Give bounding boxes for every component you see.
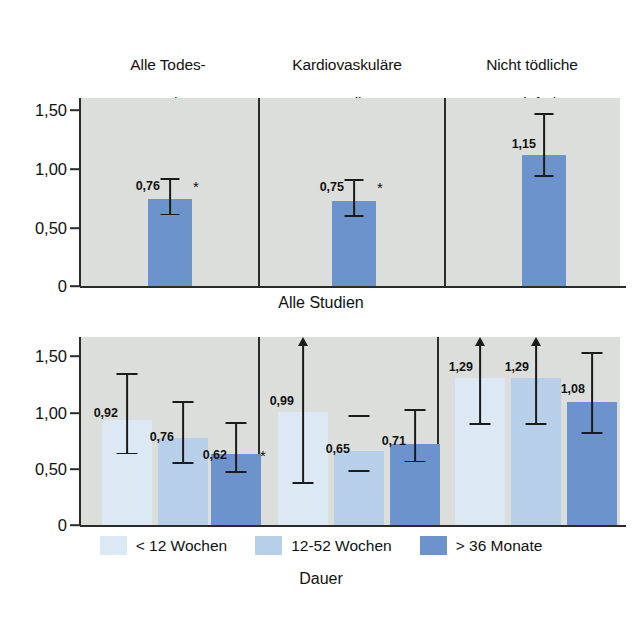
top-ytick-150: 1,50 [12,101,67,120]
bottom-errorbar-cap-bottom-p3-lt12w [470,423,491,425]
top-y-axis [79,98,81,286]
bottom-value-label-p2-gt36m: 0,71 [382,434,406,448]
top-errorbar-cap-top-cv-mortality [345,179,364,181]
bottom-errorbar-cap-bottom-p2-gt36m [405,461,426,463]
legend-label-12to52w: 12-52 Wochen [291,537,392,555]
bottom-value-label-p3-lt12w: 1,29 [449,360,473,374]
bottom-value-label-p2-12to52w: 0,65 [326,442,350,456]
top-errorbar-cap-bottom-cv-mortality [345,215,364,217]
bottom-x-axis [80,525,626,527]
top-significance-all-cause: * [193,179,199,194]
legend-swatch-lt12w [100,536,127,555]
legend-item-gt36m[interactable]: > 36 Monate [420,536,543,555]
top-panel-divider-2 [444,98,446,286]
top-panel-divider-1 [258,98,260,286]
top-errorbar-cap-top-nonfatal-mi [535,113,554,115]
bottom-value-label-p3-gt36m: 1,08 [561,382,585,396]
legend-item-12to52w[interactable]: 12-52 Wochen [255,536,392,555]
bottom-ytick-150: 1,50 [12,347,67,366]
top-errorbar-all-cause [169,179,171,215]
bottom-ytick-100: 1,00 [12,404,67,423]
bottom-errorbar-cap-bottom-p1-12to52w [173,462,194,464]
bottom-errorbar-cap-top-p1-gt36m [226,422,247,424]
bottom-significance-p1-gt36m: * [260,448,266,463]
top-errorbar-cap-bottom-nonfatal-mi [535,175,554,177]
bottom-errorbar-p3-lt12w [479,346,481,425]
caption-alle-studien: Alle Studien [0,294,642,312]
bottom-errorbar-p1-12to52w [182,403,184,463]
top-x-axis [80,286,626,288]
bottom-errorbar-cap-top-p3-gt36m [582,352,603,354]
bottom-errorbar-arrow-p3-lt12w [475,337,485,346]
bottom-errorbar-p1-gt36m [235,424,237,473]
top-value-label-all-cause: 0,76 [136,179,160,193]
bottom-value-label-p1-12to52w: 0,76 [150,430,174,444]
bottom-errorbar-p3-12to52w [535,346,537,425]
bottom-errorbar-cap-bottom-p1-gt36m [226,471,247,473]
legend: < 12 Wochen 12-52 Wochen > 36 Monate [0,536,642,555]
bottom-errorbar-p2-lt12w [302,346,304,484]
bottom-errorbar-cap-bottom-p3-12to52w [526,423,547,425]
bottom-value-label-p3-12to52w: 1,29 [505,360,529,374]
bottom-value-label-p2-lt12w: 0,99 [270,394,294,408]
bottom-bar-p2-12to52w [334,451,384,525]
bottom-errorbar-cap-bottom-p1-lt12w [117,453,138,455]
top-value-label-nonfatal-mi: 1,15 [512,137,536,151]
top-value-label-cv-mortality: 0,75 [320,180,344,194]
bottom-errorbar-cap-bottom-p3-gt36m [582,432,603,434]
top-errorbar-nonfatal-mi [543,115,545,177]
bottom-plot-inner: 0,92 0,76 0,62 * 0,99 [80,337,620,525]
bottom-errorbar-p3-gt36m [591,354,593,434]
top-errorbar-cap-top-all-cause [161,178,180,180]
legend-label-lt12w: < 12 Wochen [136,537,228,555]
top-ytick-050: 0,50 [12,219,67,238]
bottom-ytick-0: 0 [12,516,67,535]
top-ytick-0: 0 [12,277,67,296]
bottom-errorbar-cap-bottom-p2-lt12w [293,482,314,484]
bottom-errorbar-cap-top-p1-12to52w [173,401,194,403]
column-header-all-cause-line1: Alle Todes- [130,56,205,73]
legend-label-gt36m: > 36 Monate [456,537,543,555]
bottom-errorbar-cap-top-p2-12to52w [349,415,370,417]
bottom-errorbar-arrow-p2-lt12w [298,337,308,346]
column-header-nonfatal-mi-line1: Nicht tödliche [486,56,578,73]
bottom-errorbar-cap-top-p1-lt12w [117,373,138,375]
top-ytick-100: 1,00 [12,160,67,179]
bottom-plot-area: 0,92 0,76 0,62 * 0,99 [80,337,620,525]
top-plot-area: 0,76 * 0,75 * 1,15 [80,98,620,286]
legend-swatch-12to52w [255,536,282,555]
top-errorbar-cap-bottom-all-cause [161,214,180,216]
bottom-errorbar-p1-lt12w [126,375,128,455]
top-plot-inner: 0,76 * 0,75 * 1,15 [80,98,620,286]
bottom-value-label-p1-gt36m: 0,62 [203,448,227,462]
bottom-errorbar-arrow-p3-12to52w [531,337,541,346]
legend-swatch-gt36m [420,536,447,555]
bottom-ytick-050: 0,50 [12,460,67,479]
bottom-value-label-p1-lt12w: 0,92 [94,406,118,420]
bottom-errorbar-p2-gt36m [414,411,416,462]
top-significance-cv-mortality: * [377,180,383,195]
bottom-errorbar-cap-bottom-p2-12to52w [349,470,370,472]
bottom-errorbar-cap-top-p2-gt36m [405,409,426,411]
column-header-cv-mortality-line1: Kardiovaskuläre [292,56,402,73]
figure-root: Alle Todes- ursachen Kardiovaskuläre Mor… [0,0,642,618]
bottom-y-axis [79,337,81,525]
x-axis-title-dauer: Dauer [0,570,642,588]
top-errorbar-cv-mortality [353,181,355,216]
legend-item-lt12w[interactable]: < 12 Wochen [100,536,228,555]
